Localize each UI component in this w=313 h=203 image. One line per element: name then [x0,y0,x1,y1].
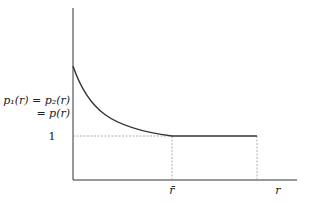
y-label-line1: p₁(r) = p₂(r) [3,94,70,107]
x-tick-rbar: r̄ [169,184,175,197]
x-axis-label: r [275,184,281,197]
y-tick-1: 1 [49,130,56,143]
y-label-line2: = p(r) [36,107,70,120]
diagram: p₁(r) = p₂(r) = p(r) 1 r̄ r [0,0,313,203]
curve-p-r [73,66,257,136]
